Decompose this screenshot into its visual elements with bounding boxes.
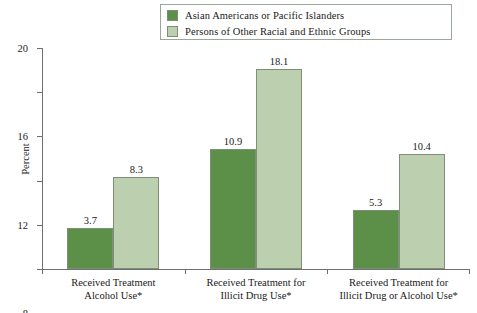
category-label-line: Received Treatment (42, 276, 185, 289)
bar: 10.9 (210, 149, 256, 269)
bar-group: 3.78.3 (42, 48, 185, 269)
bar-value-label: 8.3 (130, 164, 143, 175)
legend-swatch-icon (167, 26, 178, 37)
plot-area: Percent 048121620 3.78.310.918.15.310.4 (42, 48, 470, 270)
bar-value-label: 10.4 (412, 141, 430, 152)
y-tick-label: 12 (18, 219, 29, 230)
x-axis-category-labels: Received TreatmentAlcohol Use*Received T… (42, 276, 470, 310)
category-label-line: Alcohol Use* (42, 289, 185, 302)
y-tick-label: 20 (18, 43, 29, 54)
x-tick (42, 269, 43, 274)
bar-value-label: 18.1 (270, 56, 288, 67)
legend-item-1: Persons of Other Racial and Ethnic Group… (167, 24, 445, 39)
bar-series-container: 3.78.310.918.15.310.4 (42, 48, 470, 269)
bar: 18.1 (256, 69, 302, 269)
bar: 8.3 (113, 177, 159, 269)
chart-legend: Asian Americans or Pacific Islanders Per… (160, 4, 452, 40)
x-tick (327, 269, 328, 274)
bar: 10.4 (399, 154, 445, 269)
legend-item-label: Persons of Other Racial and Ethnic Group… (185, 26, 370, 37)
category-label-line: Received Treatment for (327, 276, 470, 289)
x-axis-line (42, 269, 470, 270)
legend-item-label: Asian Americans or Pacific Islanders (185, 10, 344, 21)
category-label: Received Treatment forIllicit Drug Use* (185, 276, 328, 302)
y-tick-label: 8 (23, 308, 28, 313)
category-label-line: Illicit Drug Use* (185, 289, 328, 302)
y-axis-title: Percent (20, 143, 31, 175)
x-tick (469, 269, 470, 274)
bar-value-label: 5.3 (369, 197, 382, 208)
bar: 5.3 (353, 210, 399, 269)
legend-item-0: Asian Americans or Pacific Islanders (167, 8, 445, 23)
bar-chart: Asian Americans or Pacific Islanders Per… (0, 0, 477, 313)
category-label: Received Treatment forIllicit Drug or Al… (327, 276, 470, 302)
bar-group: 10.918.1 (185, 48, 328, 269)
bar-group: 5.310.4 (327, 48, 470, 269)
bar-value-label: 10.9 (224, 136, 242, 147)
bar-value-label: 3.7 (84, 215, 97, 226)
bar: 3.7 (67, 228, 113, 269)
category-label: Received TreatmentAlcohol Use* (42, 276, 185, 302)
category-label-line: Received Treatment for (185, 276, 328, 289)
category-label-line: Illicit Drug or Alcohol Use* (327, 289, 470, 302)
legend-swatch-icon (167, 10, 178, 21)
y-tick-label: 16 (18, 131, 29, 142)
x-tick (185, 269, 186, 274)
